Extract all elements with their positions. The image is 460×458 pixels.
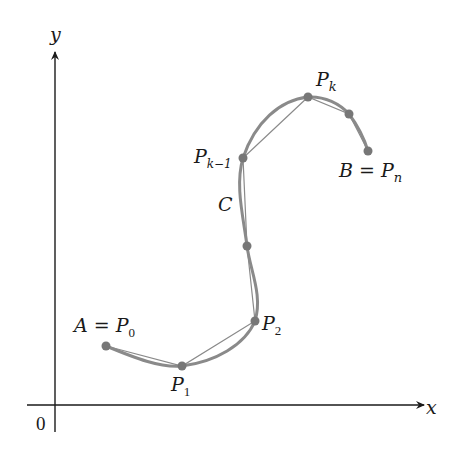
origin-label: 0 (36, 413, 46, 434)
arc-length-diagram: y x 0 C A = P0 P1 P2 Pk−1 Pk B = Pn (0, 0, 460, 458)
label-pn: B = Pn (338, 159, 402, 185)
label-p1: P1 (170, 373, 190, 399)
x-axis-label: x (426, 396, 437, 418)
label-p2: P2 (261, 312, 281, 338)
point-mid (243, 242, 252, 251)
point-p2 (251, 317, 260, 326)
point-pn (364, 147, 373, 156)
point-pk (304, 93, 313, 102)
y-axis-label: y (49, 23, 61, 45)
label-p0: A = P0 (72, 314, 135, 340)
point-p0 (102, 342, 111, 351)
curve-c (106, 97, 368, 366)
point-pk+1 (345, 110, 354, 119)
point-p1 (178, 362, 187, 371)
curve-label: C (218, 193, 233, 215)
label-pk-1: Pk−1 (193, 145, 232, 171)
polygonal-path (106, 97, 368, 366)
point-pk-1 (239, 154, 248, 163)
label-pk: Pk (315, 68, 337, 94)
